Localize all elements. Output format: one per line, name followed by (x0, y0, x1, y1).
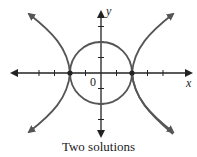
intersection-point-left (67, 70, 72, 75)
intersection-point-right (129, 70, 134, 75)
figure-caption: Two solutions (0, 139, 197, 155)
x-axis-label: x (186, 76, 191, 91)
y-axis-label: y (106, 4, 111, 19)
origin-label: 0 (90, 75, 96, 90)
hyperbola-right-branch (132, 14, 173, 134)
y-axis (98, 12, 104, 136)
graph-canvas (0, 0, 197, 157)
hyperbola-left-branch (29, 14, 70, 73)
